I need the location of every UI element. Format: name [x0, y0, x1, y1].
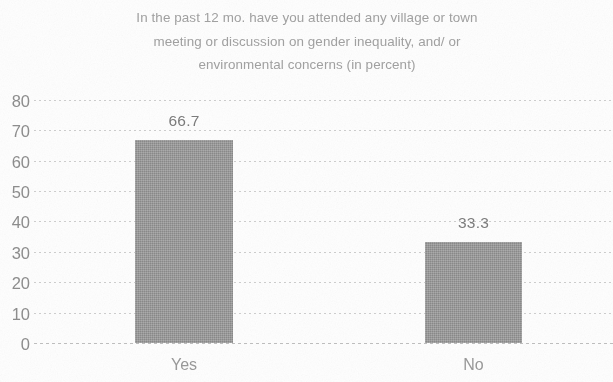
- ytick-label-60: 60: [0, 154, 30, 171]
- category-label-no: No: [425, 357, 522, 373]
- gridline-20: [34, 282, 613, 283]
- ytick-label-40: 40: [0, 214, 30, 231]
- gridline-40: [34, 221, 613, 222]
- bar-chart-figure: In the past 12 mo. have you attended any…: [0, 0, 613, 382]
- ytick-label-0: 0: [0, 336, 30, 353]
- ytick-label-70: 70: [0, 123, 30, 140]
- gridline-baseline-0: [34, 343, 613, 344]
- gridline-30: [34, 252, 613, 253]
- bar-no[interactable]: [425, 242, 522, 343]
- ytick-label-30: 30: [0, 245, 30, 262]
- ytick-label-20: 20: [0, 275, 30, 292]
- gridline-60: [34, 161, 613, 162]
- bar-value-label-yes: 66.7: [135, 113, 233, 129]
- gridline-70: [34, 130, 613, 131]
- bar-yes[interactable]: [135, 140, 233, 343]
- ytick-label-10: 10: [0, 306, 30, 323]
- gridline-50: [34, 191, 613, 192]
- ytick-label-50: 50: [0, 184, 30, 201]
- category-label-yes: Yes: [135, 357, 233, 373]
- gridline-80: [34, 100, 613, 101]
- chart-title: In the past 12 mo. have you attended any…: [46, 6, 568, 77]
- ytick-label-80: 80: [0, 93, 30, 110]
- bar-value-label-no: 33.3: [425, 215, 522, 231]
- gridline-10: [34, 313, 613, 314]
